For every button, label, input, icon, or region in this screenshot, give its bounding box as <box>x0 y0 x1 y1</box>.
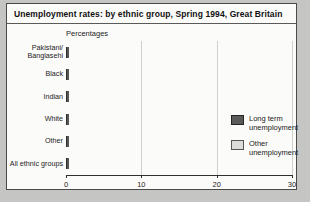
x-axis-tick-0 <box>66 175 67 178</box>
legend-swatch-other-unemployment <box>231 140 244 150</box>
legend-item-other-unemployment: Other unemployment <box>231 139 309 157</box>
stacked-bar <box>66 136 69 147</box>
bar-segment-other-unemployment <box>67 91 69 102</box>
category-label-white: White <box>9 108 63 130</box>
x-axis-tick-10 <box>141 175 142 178</box>
category-label-indian: Indian <box>9 86 63 108</box>
x-axis-tick-30 <box>292 175 293 178</box>
legend-label-long-term-unemployment: Long term unemployment <box>249 114 309 132</box>
legend-label-other-unemployment: Other unemployment <box>249 139 309 157</box>
x-axis-label-10: 10 <box>137 180 145 189</box>
category-label-black: Black <box>9 63 63 85</box>
bar-segment-other-unemployment <box>67 136 69 147</box>
bar-row-pakistani- <box>66 41 292 63</box>
stacked-bar <box>66 158 69 169</box>
x-axis-label-30: 30 <box>288 180 296 189</box>
x-axis-label-0: 0 <box>64 180 68 189</box>
bar-segment-other-unemployment <box>67 69 69 80</box>
stacked-bar <box>66 47 69 58</box>
page-background: { "title": "Unemployment rates: by ethni… <box>0 0 310 202</box>
bar-segment-other-unemployment <box>67 158 69 169</box>
category-labels: Pakistani/ BanglasehiBlackIndianWhiteOth… <box>9 41 63 175</box>
stacked-bar <box>66 91 69 102</box>
category-label-all-ethnic-groups: All ethnic groups <box>9 153 63 175</box>
unit-label: Percentages <box>66 29 108 38</box>
bar-row-black <box>66 63 292 85</box>
chart-area: Percentages Pakistani/ BanglasehiBlackIn… <box>7 24 296 189</box>
category-label-pakistani-: Pakistani/ Banglasehi <box>9 41 63 63</box>
legend-swatch-long-term-unemployment <box>231 115 244 125</box>
legend: Long term unemploymentOther unemployment <box>231 114 309 164</box>
bar-row-indian <box>66 86 292 108</box>
bar-segment-other-unemployment <box>67 114 69 125</box>
category-label-other: Other <box>9 130 63 152</box>
chart-panel: Unemployment rates: by ethnic group, Spr… <box>6 3 297 190</box>
legend-item-long-term-unemployment: Long term unemployment <box>231 114 309 132</box>
stacked-bar <box>66 69 69 80</box>
chart-title: Unemployment rates: by ethnic group, Spr… <box>7 4 296 24</box>
bar-segment-other-unemployment <box>67 47 69 58</box>
x-axis-tick-20 <box>217 175 218 178</box>
stacked-bar <box>66 114 69 125</box>
x-axis-label-20: 20 <box>212 180 220 189</box>
